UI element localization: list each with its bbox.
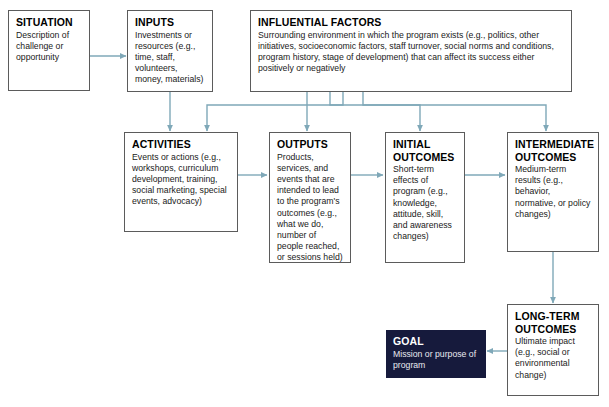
box-initial-outcomes-body: Short-term effects of program (e.g., kno… xyxy=(393,164,458,242)
box-outputs-body: Products, services, and events that are … xyxy=(277,152,344,264)
box-goal-title: GOAL xyxy=(393,335,480,348)
box-inputs[interactable]: INPUTS Investments or resources (e.g., t… xyxy=(127,10,213,92)
box-initial-outcomes[interactable]: INITIAL OUTCOMES Short-term effects of p… xyxy=(385,132,465,263)
box-influential-factors[interactable]: INFLUENTIAL FACTORS Surrounding environm… xyxy=(250,10,572,92)
box-situation-body: Description of challenge or opportunity xyxy=(16,30,83,64)
box-outputs[interactable]: OUTPUTS Products, services, and events t… xyxy=(269,132,351,263)
connector-factors-to-activities xyxy=(207,92,343,131)
box-activities-body: Events or actions (e.g., workshops, curr… xyxy=(132,152,231,208)
box-situation[interactable]: SITUATION Description of challenge or op… xyxy=(8,10,90,91)
box-inputs-title: INPUTS xyxy=(135,16,206,29)
box-long-term-outcomes-body: Ultimate impact (e.g., social or environ… xyxy=(515,336,592,381)
box-intermediate-outcomes[interactable]: INTERMEDIATE OUTCOMES Medium-term result… xyxy=(507,132,599,252)
box-influential-factors-body: Surrounding environment in which the pro… xyxy=(258,30,565,75)
box-goal[interactable]: GOAL Mission or purpose of program xyxy=(386,330,486,378)
box-activities[interactable]: ACTIVITIES Events or actions (e.g., work… xyxy=(124,132,238,232)
connector-factors-to-intermediate xyxy=(330,92,546,131)
box-goal-body: Mission or purpose of program xyxy=(393,349,480,371)
connector-factors-to-initial xyxy=(363,92,420,131)
box-situation-title: SITUATION xyxy=(16,16,83,29)
box-initial-outcomes-title: INITIAL OUTCOMES xyxy=(393,138,458,163)
box-inputs-body: Investments or resources (e.g., time, st… xyxy=(135,30,206,86)
box-intermediate-outcomes-title: INTERMEDIATE OUTCOMES xyxy=(515,138,592,163)
box-influential-factors-title: INFLUENTIAL FACTORS xyxy=(258,16,565,29)
logic-model-diagram: SITUATION Description of challenge or op… xyxy=(0,0,609,407)
box-long-term-outcomes-title: LONG-TERM OUTCOMES xyxy=(515,310,592,335)
box-activities-title: ACTIVITIES xyxy=(132,138,231,151)
box-intermediate-outcomes-body: Medium-term results (e.g., behavior, nor… xyxy=(515,164,592,220)
box-outputs-title: OUTPUTS xyxy=(277,138,344,151)
box-long-term-outcomes[interactable]: LONG-TERM OUTCOMES Ultimate impact (e.g.… xyxy=(507,304,599,396)
